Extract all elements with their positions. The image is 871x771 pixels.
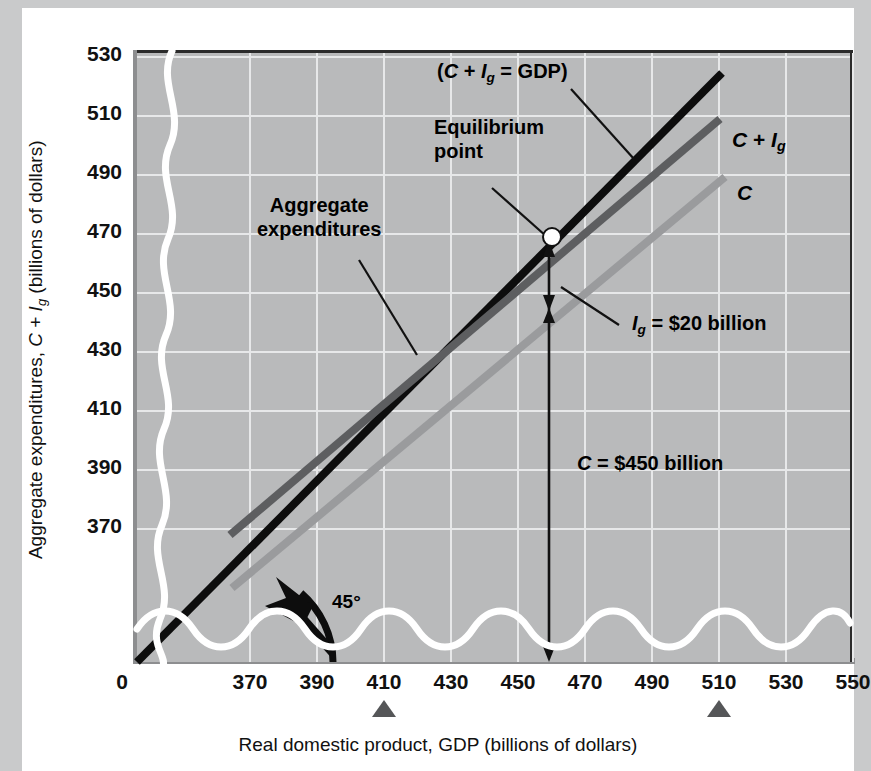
origin-label: 0 [116,670,128,694]
figure-panel: Aggregate expenditures, C + Ig (billions… [22,8,854,771]
x-tick-label: 550 [835,670,870,694]
x-tick-label: 450 [500,670,535,694]
x-tick-label: 510 [701,670,736,694]
leader-line-equilibrium [492,188,546,236]
x-tick-label: 470 [567,670,602,694]
x-tick-label: 390 [299,670,334,694]
c-series-label: C [737,181,752,204]
x-tick-label: 530 [768,670,803,694]
x-tick-label: 490 [634,670,669,694]
gdp-label-eq: = GDP [495,60,561,82]
x-tick-label: 370 [232,670,267,694]
y-tick-label: 410 [22,396,122,420]
aggregate-label-line2: expenditures [257,217,381,241]
axis-marker-triangle [707,700,731,717]
gridline-vertical [852,53,854,662]
ci-label-c: C [732,128,747,151]
x-tick-label: 410 [366,670,401,694]
gdp-label-c: C [444,60,458,82]
y-tick-label: 510 [22,101,122,125]
c-label-c: C [577,452,591,474]
equilibrium-label-line2: point [434,139,544,163]
annotation-gdp-line-label: (C + Ig = GDP) [437,59,568,86]
c-label-text: = $450 billion [591,452,723,474]
equilibrium-point-marker [543,228,561,246]
leader-line-gdp [571,89,634,159]
y-tick-label: 530 [22,42,122,66]
consumption-level-arrow [542,305,556,662]
y-tick-label: 430 [22,337,122,361]
y-tick-label: 450 [22,278,122,302]
y-tick-label: 370 [22,514,122,538]
y-axis-break-squiggle [156,51,174,667]
gdp-paren-close: ) [561,60,568,82]
plot-area: (C + Ig = GDP) Equilibrium point Aggrega… [137,50,853,662]
gdp-label-plus: + [458,60,481,82]
ci-label-g: g [777,138,786,154]
y-axis-label-plus: + [25,311,46,333]
leader-line-aggregate-expenditures [359,260,417,355]
y-tick-label: 470 [22,219,122,243]
x-tick-label: 430 [433,670,468,694]
series-label-c: C [737,181,752,205]
gdp-label-g: g [486,70,494,85]
annotation-equilibrium-point: Equilibrium point [434,115,544,163]
annotation-consumption-level: C = $450 billion [577,451,723,475]
ig-label-g: g [638,322,646,337]
series-label-c-plus-ig: C + Ig [732,128,786,154]
x-axis-label: Real domestic product, GDP (billions of … [22,734,854,756]
equilibrium-label-line1: Equilibrium [434,115,544,139]
annotation-aggregate-expenditures: Aggregate expenditures [257,193,381,241]
annotation-investment-gap: Ig = $20 billion [632,311,766,338]
y-axis-label-i: I [25,306,46,311]
ci-label-plus: + [747,128,771,151]
y-tick-label: 490 [22,160,122,184]
aggregate-label-line1: Aggregate [257,193,381,217]
axis-marker-triangle [372,700,396,717]
ig-label-text: = $20 billion [646,312,767,334]
gdp-paren-open: ( [437,60,444,82]
y-tick-label: 390 [22,455,122,479]
annotation-angle: 45° [332,591,361,614]
x-axis-break-squiggle [137,611,850,647]
